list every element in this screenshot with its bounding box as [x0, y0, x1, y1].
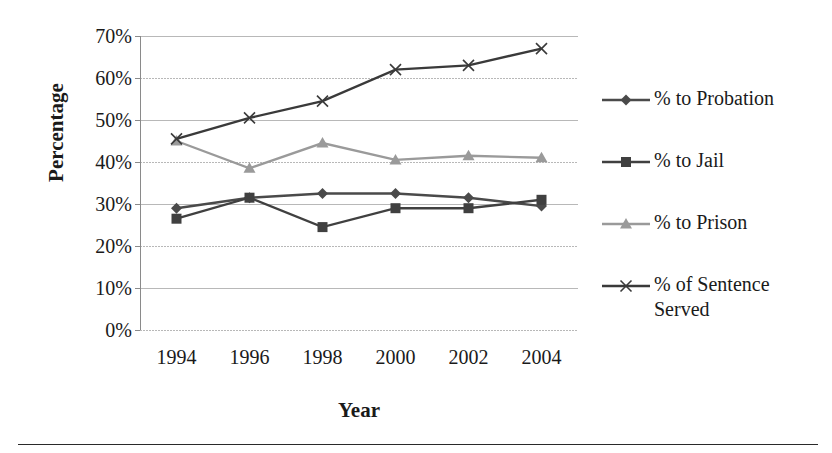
chart-legend: % to Probation% to Jail% to Prison% of S… [600, 86, 830, 358]
x-axis-title: Year [140, 398, 578, 423]
x-axis-tick-label: 2000 [356, 346, 436, 369]
legend-item[interactable]: % to Probation [600, 86, 830, 112]
series-4 [171, 43, 547, 144]
legend-item[interactable]: % of Sentence Served [600, 272, 830, 322]
series-line [177, 198, 542, 227]
legend-marker-diamond-icon [600, 88, 652, 112]
data-point-diamond [390, 188, 401, 199]
x-axis-tick-label: 1994 [137, 346, 217, 369]
legend-label: % to Prison [652, 210, 747, 235]
legend-item[interactable]: % to Jail [600, 148, 830, 174]
data-point-square [621, 157, 631, 167]
legend-label: % to Probation [652, 86, 774, 111]
x-axis-tick-label: 1998 [283, 346, 363, 369]
series-3 [171, 135, 548, 173]
legend-label: % to Jail [652, 148, 724, 173]
series-line [177, 49, 542, 139]
x-axis-tick-label: 1996 [210, 346, 290, 369]
data-point-square [464, 203, 474, 213]
legend-item[interactable]: % to Prison [600, 210, 830, 236]
legend-label: % of Sentence Served [652, 272, 770, 322]
data-point-diamond [463, 192, 474, 203]
footer-divider [18, 444, 818, 445]
data-point-square [537, 195, 547, 205]
data-point-square [172, 214, 182, 224]
data-point-square [391, 203, 401, 213]
x-axis-tick-label: 2002 [429, 346, 509, 369]
data-point-diamond [621, 95, 632, 106]
legend-marker-x-icon [600, 274, 652, 298]
data-point-diamond [317, 188, 328, 199]
series-2 [172, 193, 547, 232]
legend-marker-square-icon [600, 150, 652, 174]
x-axis-tick-label: 2004 [502, 346, 582, 369]
data-point-square [318, 222, 328, 232]
line-chart: Percentage 0%10%20%30%40%50%60%70% 19941… [0, 0, 832, 453]
series-1 [171, 188, 547, 214]
series-line [177, 141, 542, 168]
data-point-triangle [317, 137, 329, 148]
legend-marker-triangle-icon [600, 212, 652, 236]
data-point-square [245, 193, 255, 203]
